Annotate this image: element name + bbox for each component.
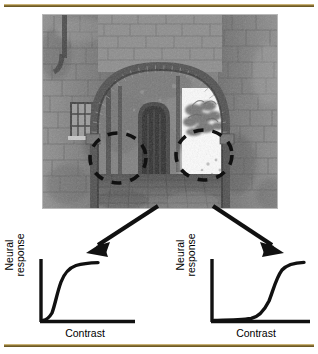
chart-right-x-axis-label: Contrast	[211, 327, 301, 339]
top-divider-rule	[4, 4, 314, 7]
figure-panel: Neural response Contrast Neural response	[0, 0, 318, 354]
chart-left-contrast-response: Neural response Contrast	[0, 255, 159, 354]
bottom-divider-rule	[4, 344, 314, 347]
right-response-curve	[214, 262, 304, 320]
chart-right-plot	[159, 255, 318, 354]
stone-archway-alley-photograph	[42, 14, 278, 209]
chart-left-plot	[0, 255, 159, 354]
arrow-to-left-chart	[86, 206, 158, 257]
left-response-curve	[43, 263, 98, 321]
chart-left-x-axis-label: Contrast	[40, 327, 130, 339]
chart-right-contrast-response: Neural response Contrast	[159, 255, 318, 354]
arrow-to-right-chart	[213, 206, 284, 257]
